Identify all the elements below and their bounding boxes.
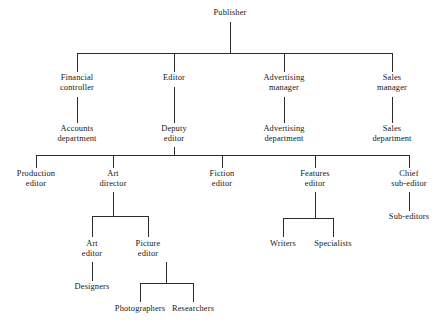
node-chief-sub-editor: Chief sub-editor [391, 169, 426, 190]
org-chart: Publisher Financial controller Editor Ad… [0, 0, 448, 325]
node-features-editor: Features editor [300, 169, 330, 190]
connector-art-editor-to-designers [92, 262, 93, 281]
node-art-director-line-2: director [99, 179, 126, 189]
connector-art-director-stem [113, 192, 114, 217]
connector-drop-editor [174, 53, 175, 72]
connector-level3-bus [36, 155, 410, 156]
node-deputy-editor-line-1: Deputy [161, 124, 187, 134]
node-accounts-department-line-2: department [57, 134, 96, 144]
node-financial-controller-line-1: Financial [60, 73, 94, 83]
node-fiction-editor-line-1: Fiction [210, 169, 235, 179]
node-publisher: Publisher [214, 8, 247, 18]
node-sub-editors-line-1: Sub-editors [389, 212, 429, 222]
node-advertising-department: Advertising department [263, 124, 304, 145]
node-art-director: Art director [99, 169, 126, 190]
node-writers: Writers [270, 239, 296, 249]
connector-drop-fiction-editor [222, 155, 223, 168]
node-production-editor-line-2: editor [17, 179, 55, 189]
node-sales-department: Sales department [372, 124, 411, 145]
connector-sales-manager-to-department [392, 97, 393, 123]
connector-level1-bus [77, 53, 393, 54]
connector-drop-chief-sub-editor [409, 155, 410, 168]
node-writers-line-1: Writers [270, 239, 296, 249]
node-chief-sub-editor-line-1: Chief [391, 169, 426, 179]
connector-features-editor-stem [315, 192, 316, 219]
node-researchers: Researchers [172, 304, 214, 314]
node-photographers: Photographers [115, 304, 165, 314]
connector-drop-art-editor [92, 216, 93, 237]
node-financial-controller: Financial controller [60, 73, 94, 94]
node-art-director-line-1: Art [99, 169, 126, 179]
connector-drop-production-editor [36, 155, 37, 168]
connector-financial-controller-to-accounts [77, 97, 78, 123]
connector-drop-researchers [193, 283, 194, 302]
node-designers-line-1: Designers [75, 282, 110, 292]
node-editor-line-1: Editor [163, 73, 185, 83]
connector-drop-financial-controller [77, 53, 78, 72]
connector-drop-writers [283, 218, 284, 237]
connector-drop-advertising-manager [284, 53, 285, 72]
node-fiction-editor-line-2: editor [210, 179, 235, 189]
node-advertising-department-line-2: department [263, 134, 304, 144]
node-features-editor-line-2: editor [300, 179, 330, 189]
node-accounts-department: Accounts department [57, 124, 96, 145]
node-editor: Editor [163, 73, 185, 83]
node-art-editor-line-2: editor [82, 249, 102, 259]
node-chief-sub-editor-line-2: sub-editor [391, 179, 426, 189]
node-researchers-line-1: Researchers [172, 304, 214, 314]
connector-features-editor-bus [283, 218, 334, 219]
node-sales-manager-line-1: Sales [377, 73, 407, 83]
node-advertising-manager-line-2: manager [263, 83, 304, 93]
connector-chief-sub-editor-to-sub-editors [409, 192, 410, 211]
node-picture-editor-line-2: editor [136, 249, 161, 259]
node-advertising-manager-line-1: Advertising [263, 73, 304, 83]
node-sales-department-line-2: department [372, 134, 411, 144]
node-sub-editors: Sub-editors [389, 212, 429, 222]
node-accounts-department-line-1: Accounts [57, 124, 96, 134]
node-publisher-line-1: Publisher [214, 8, 247, 18]
node-advertising-department-line-1: Advertising [263, 124, 304, 134]
node-production-editor: Production editor [17, 169, 55, 190]
connector-drop-features-editor [315, 155, 316, 168]
connector-publisher-stem [230, 22, 231, 53]
connector-drop-specialists [333, 218, 334, 237]
node-features-editor-line-1: Features [300, 169, 330, 179]
connector-picture-editor-bus [140, 283, 194, 284]
connector-advertising-manager-to-department [284, 97, 285, 123]
connector-art-director-bus [92, 216, 149, 217]
node-fiction-editor: Fiction editor [210, 169, 235, 190]
node-picture-editor: Picture editor [136, 239, 161, 260]
node-deputy-editor: Deputy editor [161, 124, 187, 145]
connector-drop-art-director [113, 155, 114, 168]
connector-editor-to-deputy-editor [174, 87, 175, 123]
node-financial-controller-line-2: controller [60, 83, 94, 93]
node-sales-department-line-1: Sales [372, 124, 411, 134]
node-sales-manager: Sales manager [377, 73, 407, 94]
node-specialists-line-1: Specialists [314, 239, 351, 249]
node-deputy-editor-line-2: editor [161, 134, 187, 144]
node-photographers-line-1: Photographers [115, 304, 165, 314]
node-advertising-manager: Advertising manager [263, 73, 304, 94]
node-picture-editor-line-1: Picture [136, 239, 161, 249]
connector-drop-picture-editor [148, 216, 149, 237]
node-sales-manager-line-2: manager [377, 83, 407, 93]
node-art-editor: Art editor [82, 239, 102, 260]
node-designers: Designers [75, 282, 110, 292]
node-specialists: Specialists [314, 239, 351, 249]
node-production-editor-line-1: Production [17, 169, 55, 179]
node-art-editor-line-1: Art [82, 239, 102, 249]
connector-drop-photographers [140, 283, 141, 302]
connector-drop-sales-manager [392, 53, 393, 72]
connector-picture-editor-stem [166, 262, 167, 284]
